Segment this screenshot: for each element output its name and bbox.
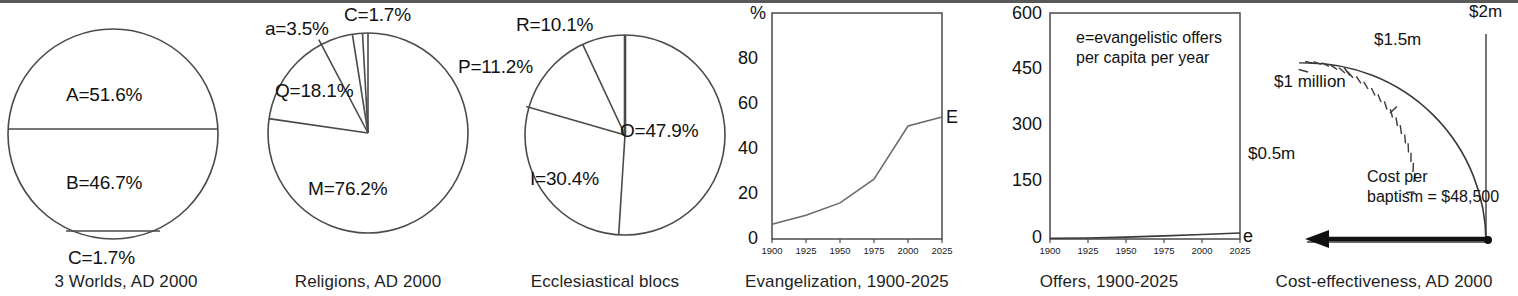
ecclesiastical-pie-svg <box>484 0 726 296</box>
ytick-label-150: 150 <box>982 170 1042 191</box>
slice-label-m: M=76.2% <box>308 178 387 200</box>
xtick-label-1925: 1925 <box>1070 245 1106 256</box>
religions-pie-svg <box>252 0 484 296</box>
plot-frame <box>772 13 942 239</box>
series-label-evangelization: E <box>946 107 958 128</box>
ytick-label-450: 450 <box>982 58 1042 79</box>
gauge-pointer <box>1305 230 1492 248</box>
slice-label-b: B=46.7% <box>66 172 142 194</box>
xtick-label-2000: 2000 <box>890 245 926 256</box>
xtick-label-1900: 1900 <box>1032 245 1068 256</box>
cost-per-baptism-note: Cost per baptism = $48,500 <box>1367 167 1499 206</box>
chart-panel-three-worlds: A=51.6% B=46.7% C=1.7% 3 Worlds, AD 2000 <box>0 0 252 296</box>
slice-label-a: A=51.6% <box>66 84 142 106</box>
panel-caption-religions: Religions, AD 2000 <box>252 272 484 292</box>
panel-caption-cost-effectiveness: Cost-effectiveness, AD 2000 <box>1250 272 1518 292</box>
xtick-label-1925: 1925 <box>788 245 824 256</box>
multi-chart-figure: A=51.6% B=46.7% C=1.7% 3 Worlds, AD 2000… <box>0 0 1518 296</box>
xtick-label-1950: 1950 <box>1108 245 1144 256</box>
pie-divider-i-o <box>619 135 625 235</box>
gauge-scale-label-one-million: $1 million <box>1274 72 1346 92</box>
panel-caption-offers: Offers, 1900-2025 <box>968 272 1250 292</box>
slice-label-i: I=30.4% <box>530 168 599 190</box>
ytick-label-300: 300 <box>982 114 1042 135</box>
xtick-label-2000: 2000 <box>1184 245 1220 256</box>
panel-caption-three-worlds: 3 Worlds, AD 2000 <box>0 272 252 292</box>
slice-label-c: C=1.7% <box>344 4 411 26</box>
chart-panel-cost-effectiveness: $0.5m $1 million $1.5m $2m Cost per bapt… <box>1250 0 1518 296</box>
gauge-scale-label-half-million: $0.5m <box>1248 144 1295 164</box>
gauge-scale-label-two-million: $2m <box>1469 2 1502 22</box>
ytick-label-600: 600 <box>982 3 1042 24</box>
slice-label-r: R=10.1% <box>516 14 593 36</box>
pie-divider-q-m <box>269 119 368 133</box>
chart-panel-ecclesiastical-blocs: O=47.9% I=30.4% P=11.2% R=10.1% Ecclesia… <box>484 0 726 296</box>
xtick-label-1950: 1950 <box>822 245 858 256</box>
y-axis-unit-label: % <box>720 3 766 24</box>
pie-divider-p-i <box>526 107 625 136</box>
xtick-label-1900: 1900 <box>754 245 790 256</box>
slice-label-o: O=47.9% <box>620 120 698 142</box>
slice-label-c: C=1.7% <box>68 247 135 269</box>
slice-label-a-small: a=3.5% <box>265 18 329 40</box>
pointer-pivot-dot <box>1484 236 1492 244</box>
xtick-label-1975: 1975 <box>856 245 892 256</box>
slice-label-p: P=11.2% <box>458 56 533 78</box>
ytick-label-40: 40 <box>720 138 758 159</box>
panel-caption-ecclesiastical-blocs: Ecclesiastical blocs <box>484 272 726 292</box>
xtick-label-2025: 2025 <box>924 245 960 256</box>
panel-caption-evangelization: Evangelization, 1900-2025 <box>726 272 968 292</box>
chart-panel-religions: Q=18.1% M=76.2% a=3.5% C=1.7% Religions,… <box>252 0 484 296</box>
xtick-label-1975: 1975 <box>1146 245 1182 256</box>
offers-annotation-note: e=evangelistic offers per capita per yea… <box>1076 28 1222 67</box>
chart-panel-evangelization: % 80 60 40 20 0 1900 1925 1950 1975 2000… <box>726 0 968 296</box>
ytick-label-60: 60 <box>720 93 758 114</box>
pointer-arrowhead <box>1305 230 1329 248</box>
slice-label-q: Q=18.1% <box>275 80 353 102</box>
pie-outline <box>8 29 218 239</box>
ytick-label-0: 0 <box>720 228 758 249</box>
ytick-label-80: 80 <box>720 48 758 69</box>
chart-panel-offers: 600 450 300 150 0 1900 1925 1950 1975 20… <box>968 0 1250 296</box>
gauge-scale-label-one-and-half-million: $1.5m <box>1374 30 1421 50</box>
pie-divider-r-p <box>583 44 625 135</box>
ytick-label-20: 20 <box>720 183 758 204</box>
